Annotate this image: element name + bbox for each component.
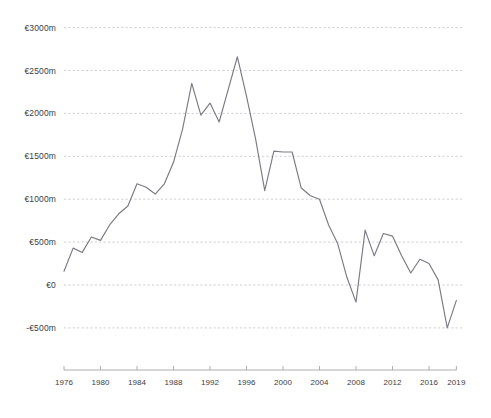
x-axis-tick-label: 1980 (91, 378, 109, 387)
x-axis-tick-label: 2004 (310, 378, 328, 387)
x-axis-tick-label: 2012 (383, 378, 401, 387)
chart-container: €3000m€2500m€2000m€1500m€1000m€500m€0-€5… (0, 0, 491, 418)
x-axis-tick-label: 1992 (201, 378, 219, 387)
x-axis-tick-label: 1984 (128, 378, 146, 387)
chart-plot-area (0, 0, 491, 418)
x-axis-tick-label: 2008 (347, 378, 365, 387)
x-axis-tick-label: 1996 (237, 378, 255, 387)
x-axis-tick-label: 1988 (164, 378, 182, 387)
x-axis-tick-label: 1976 (55, 378, 73, 387)
x-axis-tick-label: 2019 (447, 378, 465, 387)
x-axis-tick-label: 2016 (420, 378, 438, 387)
x-axis-group (64, 366, 456, 370)
series-group (64, 57, 456, 328)
x-axis-tick-label: 2000 (274, 378, 292, 387)
series-line-0 (64, 57, 456, 328)
